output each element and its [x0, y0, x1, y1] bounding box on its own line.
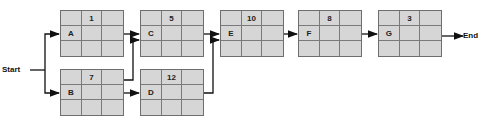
node-f-label: F [299, 26, 320, 41]
node-f: 8 F [298, 10, 362, 57]
end-label: End [463, 31, 478, 40]
node-a-duration: 1 [82, 11, 103, 26]
node-d: 12 D [140, 69, 204, 116]
node-c: 5 C [140, 10, 204, 57]
node-g-label: G [379, 26, 400, 41]
node-e-label: E [221, 26, 242, 41]
node-c-label: C [141, 26, 162, 41]
node-g-duration: 3 [400, 11, 421, 26]
node-b-duration: 7 [82, 70, 103, 85]
node-d-duration: 12 [162, 70, 183, 85]
node-d-label: D [141, 85, 162, 100]
node-e-duration: 10 [242, 11, 263, 26]
start-label: Start [2, 65, 20, 74]
node-b: 7 B [60, 69, 124, 116]
node-f-duration: 8 [320, 11, 341, 26]
node-a-label: A [61, 26, 82, 41]
node-b-label: B [61, 85, 82, 100]
node-g: 3 G [378, 10, 442, 57]
node-e: 10 E [220, 10, 284, 57]
node-c-duration: 5 [162, 11, 183, 26]
node-a: 1 A [60, 10, 124, 57]
